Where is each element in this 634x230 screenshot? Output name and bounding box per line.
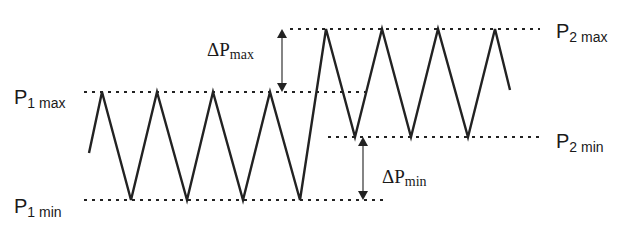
pressure-waveform [89,29,510,200]
p2-min-label: P2 min [556,130,604,155]
p2-max-label: P2 max [556,20,607,45]
p1-min-label: P1 min [14,195,62,220]
p1-max-label: P1 max [14,86,65,111]
delta-p-min-arrow [358,137,368,200]
pressure-oscillation-diagram: P1 max P1 min P2 max P2 min ΔPmax ΔPmin [0,0,634,230]
delta-p-max-label: ΔPmax [207,39,254,62]
delta-p-min-label: ΔPmin [382,166,427,189]
delta-p-max-arrow [277,29,287,92]
